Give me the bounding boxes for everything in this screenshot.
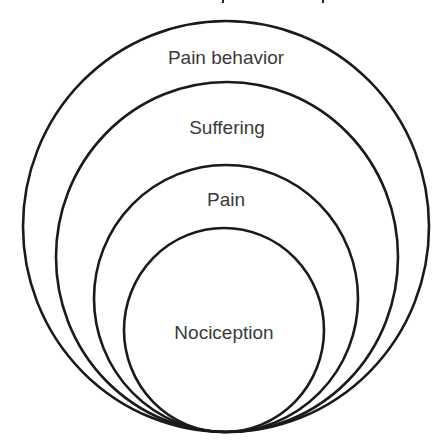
nested-circles-diagram: Pain behavior Suffering Pain Nociception — [0, 0, 446, 447]
label-suffering: Suffering — [189, 117, 265, 138]
label-pain: Pain — [207, 189, 245, 210]
cutoff-title-remnant — [222, 0, 324, 3]
label-nociception: Nociception — [174, 322, 273, 343]
label-pain-behavior: Pain behavior — [168, 47, 285, 68]
